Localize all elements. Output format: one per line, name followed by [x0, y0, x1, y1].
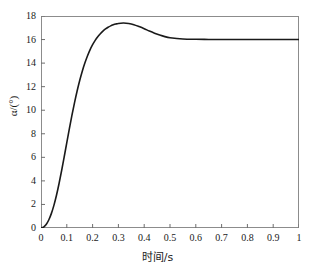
- x-tick-label: 0.5: [157, 233, 183, 243]
- x-axis-title-text: 时间/s: [142, 251, 173, 264]
- x-tick-label: 0.1: [54, 233, 80, 243]
- chart-figure: 024681012141618 00.10.20.30.40.50.60.70.…: [0, 0, 315, 273]
- data-series-line: [41, 23, 299, 228]
- x-tick-label: 0.3: [105, 233, 131, 243]
- x-tick-label: 0.8: [234, 233, 260, 243]
- y-tick-label: 14: [14, 58, 36, 68]
- y-axis-title-text: α/(°): [7, 96, 19, 117]
- x-tick-label: 1: [286, 233, 312, 243]
- y-tick-label: 0: [14, 223, 36, 233]
- x-tick-label: 0: [28, 233, 54, 243]
- tick-marks-group: [41, 16, 299, 228]
- y-tick-label: 8: [14, 129, 36, 139]
- x-axis-title: 时间/s: [0, 248, 315, 264]
- y-tick-label: 12: [14, 82, 36, 92]
- x-tick-label: 0.7: [209, 233, 235, 243]
- curve-svg: [41, 16, 299, 228]
- y-tick-label: 16: [14, 35, 36, 45]
- y-tick-label: 18: [14, 11, 36, 21]
- y-axis-title: α/(°): [7, 96, 19, 117]
- y-tick-label: 6: [14, 152, 36, 162]
- x-tick-label: 0.6: [183, 233, 209, 243]
- x-tick-label: 0.9: [260, 233, 286, 243]
- y-tick-label: 4: [14, 176, 36, 186]
- x-tick-label: 0.2: [80, 233, 106, 243]
- x-tick-label: 0.4: [131, 233, 157, 243]
- y-tick-label: 2: [14, 199, 36, 209]
